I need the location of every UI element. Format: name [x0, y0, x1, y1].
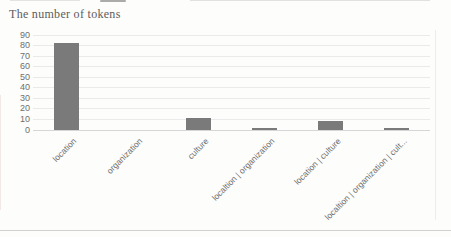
gridline-y-70	[33, 56, 430, 57]
bar-culture	[186, 118, 211, 130]
plot-area	[33, 35, 430, 130]
y-tick-label-40: 40	[2, 83, 30, 92]
cropped-text-artifact	[10, 0, 80, 1]
chart-figure: The number of tokens 0102030405060708090…	[0, 0, 451, 237]
gridline-y-90	[33, 35, 430, 36]
y-tick-label-20: 20	[2, 104, 30, 113]
page-left-edge-artifact	[0, 95, 1, 210]
gridline-y-20	[33, 108, 430, 109]
y-tick-label-0: 0	[2, 126, 30, 135]
y-tick-label-70: 70	[2, 52, 30, 61]
bar-location | culture	[318, 121, 343, 131]
bar-location	[54, 43, 79, 130]
y-tick-label-60: 60	[2, 62, 30, 71]
x-category-label: localtion | organization	[210, 136, 277, 203]
x-category-label: culture	[185, 136, 210, 161]
gridline-y-30	[33, 98, 430, 99]
bar-localtion | organization | cult...	[384, 128, 409, 130]
bar-localtion | organization	[252, 128, 277, 130]
gridline-y-10	[33, 119, 430, 120]
gridline-y-0	[33, 130, 430, 131]
y-tick-label-50: 50	[2, 73, 30, 82]
y-tick-label-30: 30	[2, 94, 30, 103]
x-category-label: organization	[105, 136, 145, 176]
chart-title: The number of tokens	[9, 7, 121, 22]
x-category-label: location	[50, 136, 78, 164]
y-tick-label-80: 80	[2, 41, 30, 50]
gridline-y-50	[33, 77, 430, 78]
gridline-y-60	[33, 66, 430, 67]
gridline-y-40	[33, 87, 430, 88]
figure-right-border	[435, 30, 436, 220]
gridline-y-80	[33, 45, 430, 46]
y-tick-label-90: 90	[2, 31, 30, 40]
cropped-text-artifact	[100, 0, 126, 2]
x-category-label: location | culture	[292, 136, 343, 187]
page-rule-line	[0, 230, 451, 231]
cropped-text-artifact	[190, 0, 430, 1]
y-tick-label-10: 10	[2, 115, 30, 124]
